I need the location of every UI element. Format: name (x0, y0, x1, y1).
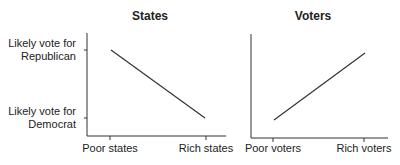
x-label-rich-voters: Rich voters (334, 142, 394, 154)
y-label-republican-line1: Likely vote for (0, 37, 76, 50)
states-chart-title: States (120, 9, 180, 23)
y-label-republican-line2: Republican (0, 50, 76, 63)
x-label-poor-voters: Poor voters (243, 142, 303, 154)
states-trend-line (111, 50, 205, 118)
y-label-democrat-line2: Democrat (0, 118, 76, 131)
voters-chart-title: Voters (283, 9, 343, 23)
voters-chart-axes (251, 34, 388, 142)
x-label-poor-states: Poor states (80, 142, 140, 154)
voters-trend-line (274, 53, 365, 120)
y-label-democrat-line1: Likely vote for (0, 105, 76, 118)
y-label-republican: Likely vote for Republican (0, 37, 76, 63)
y-label-democrat: Likely vote for Democrat (0, 105, 76, 131)
states-chart-axes (84, 33, 226, 140)
x-label-rich-states: Rich states (176, 142, 236, 154)
charts-canvas (0, 0, 400, 165)
